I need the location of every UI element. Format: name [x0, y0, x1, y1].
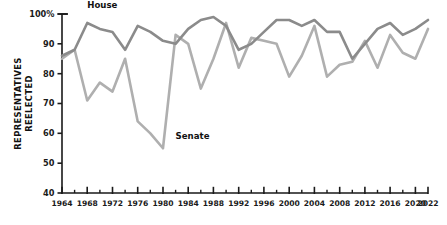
series-label-house: House	[87, 0, 117, 10]
series-label-senate: Senate	[176, 131, 210, 141]
x-tick-label-1972: 1972	[102, 199, 123, 208]
axis-spine	[62, 14, 428, 193]
reelection-rate-line-chart: REPRESENTATIVESREELECTED HouseSenate 196…	[0, 0, 447, 225]
y-axis-title-line-1: REPRESENTATIVES	[13, 57, 23, 149]
series-line-senate	[62, 23, 428, 148]
x-tick-label-2004: 2004	[304, 199, 325, 208]
x-tick-label-1968: 1968	[77, 199, 98, 208]
x-tick-label-2008: 2008	[329, 199, 350, 208]
y-tick-label-100: 100%	[29, 9, 54, 19]
y-tick-label-90: 90	[43, 39, 55, 49]
x-tick-label-1976: 1976	[127, 199, 148, 208]
y-tick-label-80: 80	[43, 69, 55, 79]
x-tick-label-1984: 1984	[178, 199, 199, 208]
x-tick-label-2016: 2016	[380, 199, 401, 208]
y-tick-label-40: 40	[43, 188, 55, 198]
x-axis-tick-labels: 1964196819721976198019841988199219962000…	[51, 199, 438, 208]
series-labels: HouseSenate	[87, 0, 209, 141]
y-axis-title: REPRESENTATIVESREELECTED	[13, 57, 35, 149]
chart-axes	[62, 14, 428, 193]
chart-container: REPRESENTATIVESREELECTED HouseSenate 196…	[0, 0, 447, 225]
x-tick-label-2022: 2022	[417, 199, 438, 208]
y-axis-title-line-2: REELECTED	[24, 75, 34, 132]
x-tick-label-1992: 1992	[228, 199, 249, 208]
data-series	[62, 17, 428, 148]
x-tick-label-1964: 1964	[51, 199, 72, 208]
y-tick-label-50: 50	[43, 158, 55, 168]
x-tick-label-2012: 2012	[354, 199, 375, 208]
x-tick-label-1996: 1996	[253, 199, 274, 208]
y-tick-label-70: 70	[43, 98, 55, 108]
x-tick-label-1980: 1980	[152, 199, 173, 208]
y-tick-label-60: 60	[43, 128, 55, 138]
x-tick-label-2000: 2000	[279, 199, 300, 208]
x-tick-label-1988: 1988	[203, 199, 224, 208]
